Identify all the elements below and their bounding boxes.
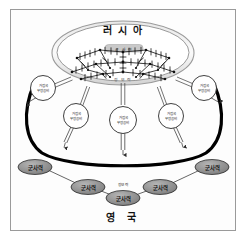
russia-military-box-label: 군 사 력	[105, 46, 143, 52]
oval-left-shape[interactable]	[71, 180, 105, 195]
node-left-inner-circle[interactable]	[64, 104, 89, 129]
oval-far-right-shape[interactable]	[195, 160, 229, 175]
oval-right-shape[interactable]	[143, 180, 177, 195]
node-right-outer-circle[interactable]	[192, 76, 217, 101]
node-right-inner-circle[interactable]	[159, 104, 184, 129]
oval-center-shape[interactable]	[106, 191, 140, 206]
oval-far-left-shape[interactable]	[18, 160, 52, 175]
node-left-outer-circle[interactable]	[31, 76, 56, 101]
diagram-canvas: 러 시 아 영 국 군 사 력 정 보 력 거점국 무장공비 거점국 무장공비 …	[0, 0, 247, 242]
diagram-vector-layer	[0, 0, 247, 242]
node-center-circle[interactable]	[110, 107, 137, 134]
russia-network-sublabel: 정 보 력	[103, 76, 143, 82]
